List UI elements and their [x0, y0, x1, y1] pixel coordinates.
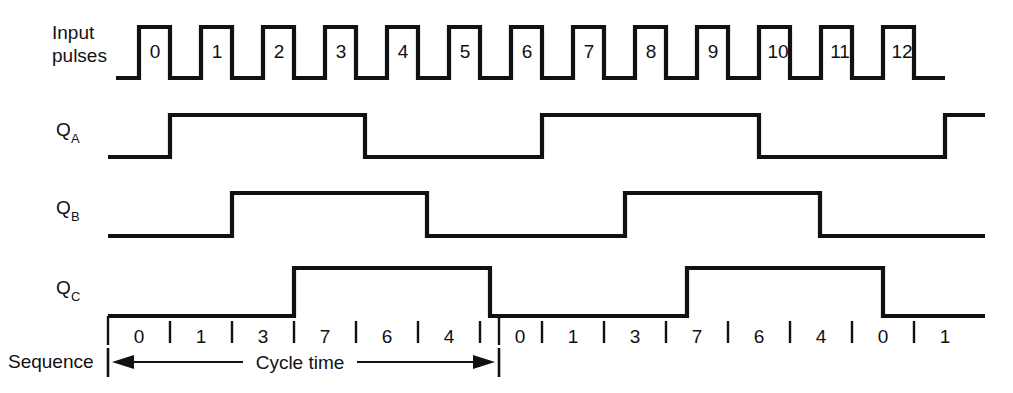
- pulse-number: 6: [522, 41, 533, 62]
- pulse-number: 12: [891, 41, 912, 62]
- sequence-axis-ticks: [108, 316, 914, 345]
- sequence-label: Sequence: [8, 351, 94, 372]
- qa-waveform: [108, 115, 985, 157]
- input-pulses-label: Input pulses: [52, 22, 107, 66]
- sequence-state: 0: [515, 326, 526, 347]
- qc-waveform: [108, 268, 985, 316]
- qb-label-base: Q: [56, 197, 71, 218]
- sequence-state: 1: [940, 326, 951, 347]
- qc-label: Q C: [56, 277, 80, 304]
- sequence-state: 7: [320, 326, 331, 347]
- pulse-number: 8: [646, 41, 657, 62]
- cycle-time-label: Cycle time: [256, 352, 345, 373]
- sequence-state: 6: [754, 326, 765, 347]
- qb-label: Q B: [56, 197, 80, 224]
- pulse-number: 0: [150, 41, 161, 62]
- sequence-state: 0: [878, 326, 889, 347]
- qc-label-base: Q: [56, 277, 71, 298]
- sequence-state: 0: [134, 326, 145, 347]
- input-pulses-label-line2: pulses: [52, 45, 107, 66]
- qb-label-subscript: B: [71, 209, 80, 224]
- qb-waveform: [108, 193, 985, 236]
- sequence-state: 1: [568, 326, 579, 347]
- pulse-number: 11: [830, 41, 850, 62]
- sequence-state: 3: [630, 326, 641, 347]
- sequence-state: 1: [196, 326, 207, 347]
- pulse-number: 7: [584, 41, 595, 62]
- pulse-number: 3: [336, 41, 347, 62]
- sequence-state: 3: [258, 326, 269, 347]
- sequence-state: 4: [816, 326, 827, 347]
- qc-label-subscript: C: [71, 289, 80, 304]
- qa-label-base: Q: [56, 119, 71, 140]
- timing-diagram-svg: Input pulses Q A Q B Q C 0 1 2 3 4 5 6 7…: [0, 0, 1013, 393]
- pulse-number: 10: [767, 41, 788, 62]
- pulse-number: 9: [708, 41, 719, 62]
- sequence-state: 4: [444, 326, 455, 347]
- sequence-state: 7: [692, 326, 703, 347]
- pulse-number: 2: [274, 41, 285, 62]
- qa-label: Q A: [56, 119, 80, 146]
- pulse-number: 5: [460, 41, 471, 62]
- input-pulses-label-line1: Input: [52, 22, 95, 43]
- sequence-state: 6: [382, 326, 393, 347]
- pulse-number: 1: [212, 41, 223, 62]
- qa-label-subscript: A: [71, 131, 80, 146]
- timing-diagram-figure: Input pulses Q A Q B Q C 0 1 2 3 4 5 6 7…: [0, 0, 1013, 393]
- pulse-number: 4: [398, 41, 409, 62]
- cycle-time-annotation: Cycle time: [108, 348, 499, 377]
